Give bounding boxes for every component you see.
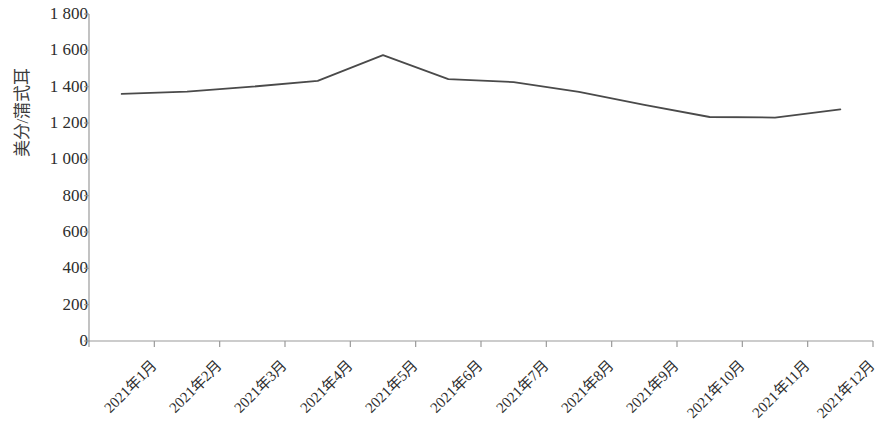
axes bbox=[84, 14, 873, 347]
data-series bbox=[122, 55, 841, 117]
series-line bbox=[122, 55, 841, 117]
